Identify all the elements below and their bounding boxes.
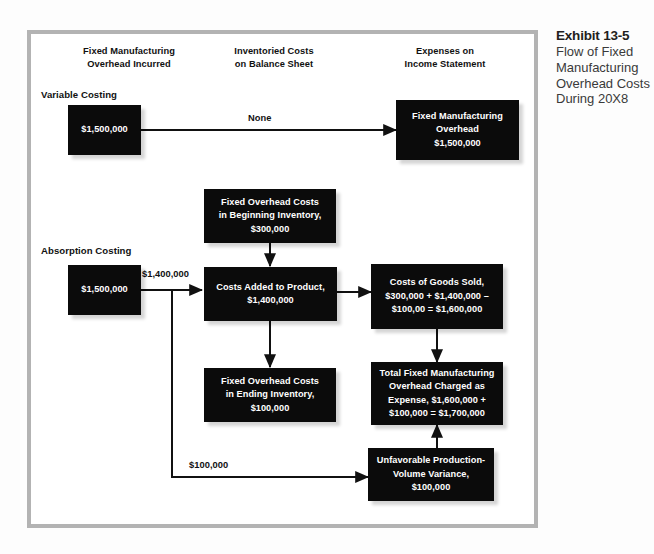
exhibit-caption: Exhibit 13-5 Flow of Fixed Manufacturing… — [556, 28, 652, 107]
column-heading-incurred: Fixed Manufacturing Overhead Incurred — [44, 45, 214, 71]
box-variable-fixed-overhead-expense-text: Fixed Manufacturing Overhead $1,500,000 — [400, 110, 515, 150]
box-absorption-overhead-incurred[interactable]: $1,500,000 — [68, 265, 141, 315]
column-heading-inventoried-line1: Inventoried Costs — [194, 45, 354, 58]
box-costs-added-to-product[interactable]: Costs Added to Product, $1,400,000 — [204, 267, 337, 321]
box-variable-overhead-incurred-text: $1,500,000 — [72, 123, 137, 136]
column-heading-inventoried: Inventoried Costs on Balance Sheet — [194, 45, 354, 71]
flow-label-variance-amount: $100,000 — [189, 460, 228, 470]
box-variable-fixed-overhead-expense[interactable]: Fixed Manufacturing Overhead $1,500,000 — [396, 100, 519, 160]
column-heading-expenses-line2: Income Statement — [370, 58, 520, 71]
box-unfavorable-volume-variance[interactable]: Unfavorable Production- Volume Variance,… — [368, 448, 494, 501]
exhibit-page: Fixed Manufacturing Overhead Incurred In… — [0, 0, 654, 554]
box-costs-added-to-product-text: Costs Added to Product, $1,400,000 — [208, 281, 333, 308]
box-costs-of-goods-sold-text: Costs of Goods Sold, $300,000 + $1,400,0… — [375, 276, 499, 316]
box-costs-of-goods-sold[interactable]: Costs of Goods Sold, $300,000 + $1,400,0… — [371, 264, 503, 329]
box-unfavorable-volume-variance-text: Unfavorable Production- Volume Variance,… — [372, 454, 490, 494]
column-heading-inventoried-line2: on Balance Sheet — [194, 58, 354, 71]
column-heading-incurred-line1: Fixed Manufacturing — [44, 45, 214, 58]
box-ending-inventory-text: Fixed Overhead Costs in Ending Inventory… — [208, 375, 332, 415]
flow-label-costs-added-amount: $1,400,000 — [142, 269, 189, 279]
flow-label-none: None — [248, 113, 271, 123]
column-heading-incurred-line2: Overhead Incurred — [44, 58, 214, 71]
box-ending-inventory[interactable]: Fixed Overhead Costs in Ending Inventory… — [204, 368, 336, 422]
exhibit-number: Exhibit 13-5 — [556, 28, 652, 43]
exhibit-title: Flow of Fixed Manufacturing Overhead Cos… — [556, 44, 652, 107]
box-total-overhead-charged-text: Total Fixed Manufacturing Overhead Charg… — [375, 367, 499, 420]
box-total-overhead-charged[interactable]: Total Fixed Manufacturing Overhead Charg… — [371, 362, 503, 425]
box-beginning-inventory[interactable]: Fixed Overhead Costs in Beginning Invent… — [204, 189, 336, 243]
section-label-absorption-costing: Absorption Costing — [41, 245, 131, 256]
box-beginning-inventory-text: Fixed Overhead Costs in Beginning Invent… — [208, 196, 332, 236]
column-heading-expenses: Expenses on Income Statement — [370, 45, 520, 71]
box-variable-overhead-incurred[interactable]: $1,500,000 — [68, 105, 141, 155]
box-absorption-overhead-incurred-text: $1,500,000 — [72, 283, 137, 296]
column-heading-expenses-line1: Expenses on — [370, 45, 520, 58]
section-label-variable-costing: Variable Costing — [41, 89, 117, 100]
